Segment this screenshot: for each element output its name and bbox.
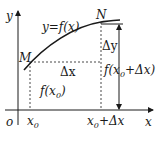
point-n-label: N xyxy=(95,8,107,22)
f-x0-plus-dx-label: f(x0+Δx) xyxy=(103,63,155,79)
x-axis-label: x xyxy=(145,115,152,129)
curve-label: y=f(x) xyxy=(41,20,80,34)
x0-label: x0 xyxy=(27,114,39,130)
y-axis-label: y xyxy=(5,9,13,23)
point-m-label: M xyxy=(18,51,32,65)
delta-x-label: Δx xyxy=(60,65,76,79)
delta-y-label: Δy xyxy=(102,39,118,53)
derivative-diagram: y x o y=f(x) M N Δx Δy f(x0) f(x0+Δx) x0… xyxy=(0,0,157,143)
x0-plus-dx-label: x0+Δx xyxy=(87,114,125,130)
f-x0-label: f(x0) xyxy=(39,84,66,100)
origin-label: o xyxy=(6,115,13,129)
